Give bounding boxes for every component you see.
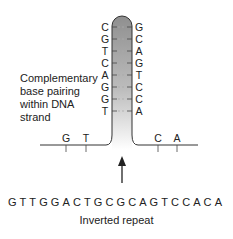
stem-right-base: T (134, 70, 144, 81)
inverted-repeat-sequence: GTTGGACTGCGCAGTCCACA (0, 196, 233, 208)
stem-left-base: T (100, 46, 110, 57)
stem-left-base: G (100, 34, 110, 45)
caption-line: Complementary (20, 72, 110, 85)
stem-right-base: C (134, 34, 144, 45)
tail-left-base: G (61, 133, 71, 144)
sequence-label: Inverted repeat (0, 214, 233, 226)
stem-shading (112, 16, 132, 150)
caption-line: base pairing (20, 85, 110, 98)
stem-right-base: G (134, 22, 144, 33)
arrow-up-icon (118, 156, 126, 183)
stem-left-base: C (100, 22, 110, 33)
stem-right-base: A (134, 106, 144, 117)
caption-line: strand (20, 111, 110, 124)
tail-right-base: A (172, 133, 182, 144)
stem-right-base: A (134, 46, 144, 57)
caption-line: within DNA (20, 98, 110, 111)
stem-right-base: C (134, 82, 144, 93)
tail-left-base: T (81, 133, 91, 144)
stem-right-base: G (134, 58, 144, 69)
caption: Complementary base pairing within DNA st… (20, 72, 110, 124)
stem-right-base: C (134, 94, 144, 105)
stem-left-base: C (100, 58, 110, 69)
tail-right-base: C (153, 133, 163, 144)
